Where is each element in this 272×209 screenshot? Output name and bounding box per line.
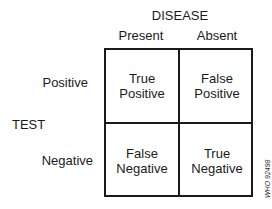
cell-line2: Positive	[119, 86, 165, 101]
row-header-positive: Positive	[20, 75, 88, 90]
cell-true-negative: True Negative	[180, 124, 254, 198]
cell-line1: True	[129, 71, 155, 86]
column-axis-title: DISEASE	[130, 8, 230, 23]
cell-line2: Positive	[194, 86, 240, 101]
cell-line1: True	[204, 146, 230, 161]
cell-line2: Negative	[191, 161, 242, 176]
cell-false-negative: False Negative	[105, 124, 179, 198]
cell-line1: False	[201, 71, 233, 86]
figure-code: WHO 92498	[264, 158, 272, 198]
cell-false-positive: False Positive	[180, 49, 254, 123]
column-header-present: Present	[104, 28, 178, 43]
cell-true-positive: True Positive	[105, 49, 179, 123]
row-axis-title: TEST	[12, 117, 45, 132]
column-header-absent: Absent	[180, 28, 254, 43]
cell-line2: Negative	[116, 161, 167, 176]
cell-line1: False	[126, 146, 158, 161]
row-header-negative: Negative	[20, 153, 93, 168]
